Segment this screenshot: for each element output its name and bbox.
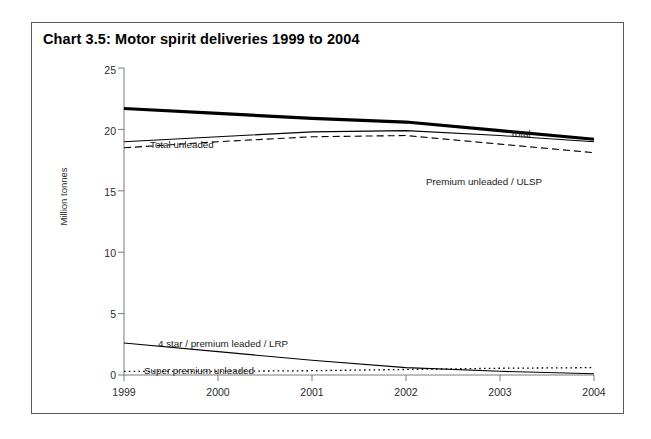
series-label-total-unleaded: Total unleaded	[150, 139, 214, 150]
y-axis-ticks	[118, 68, 124, 375]
series-label-super-premium-unleaded: Super premium unleaded	[144, 365, 254, 376]
chart-figure: Chart 3.5: Motor spirit deliveries 1999 …	[31, 22, 624, 414]
plot-area: Million tonnes 25 20 15 10 5 0 1999 2000…	[32, 23, 625, 415]
series-label-4-star-premium-leaded-lrp: 4 star / premium leaded / LRP	[158, 338, 288, 349]
series-label-premium-unleaded-ulsp: Premium unleaded / ULSP	[426, 176, 542, 187]
series-label-total: Total	[510, 128, 531, 139]
chart-plot-svg	[32, 23, 625, 415]
axes-group	[118, 68, 594, 381]
